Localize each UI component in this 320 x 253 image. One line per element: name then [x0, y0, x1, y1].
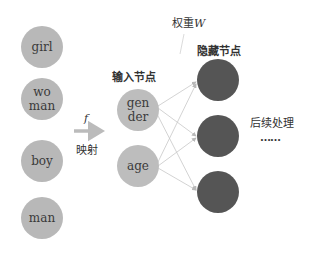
hidden-node-1 [197, 59, 239, 101]
mapping-symbol: f [84, 112, 88, 125]
hidden-node-2 [197, 115, 239, 157]
word-node-label-line1: wo [33, 85, 51, 99]
input-node-label: age [127, 159, 149, 173]
input-node-age: age [117, 145, 159, 187]
word-node-man: man [21, 197, 63, 239]
weights-label: 权重W [172, 14, 205, 30]
word-node-label: man [29, 211, 55, 225]
input-layer-title: 输入节点 [112, 68, 156, 84]
hidden-layer-title: 隐藏节点 [197, 42, 241, 58]
weight-pointer [180, 34, 184, 54]
word-node-girl: girl [21, 26, 63, 68]
input-node-label-line2: der [128, 110, 149, 124]
weights-label-text: 权重 [172, 17, 194, 30]
post-processing-ellipsis: …… [260, 131, 280, 144]
word-node-boy: boy [21, 140, 63, 182]
weight-edges [156, 82, 196, 190]
hidden-node-3 [197, 171, 239, 213]
mapping-label: 映射 [76, 141, 98, 157]
weights-symbol: W [194, 17, 205, 30]
post-processing-label: 后续处理 [250, 114, 294, 130]
input-node-gender: gen der [117, 89, 159, 131]
word-node-label: boy [31, 154, 53, 168]
word-node-woman: wo man [21, 78, 63, 120]
input-node-label-line1: gen [127, 96, 150, 110]
word-node-label-line2: man [29, 99, 55, 113]
word-node-label: girl [31, 40, 52, 54]
